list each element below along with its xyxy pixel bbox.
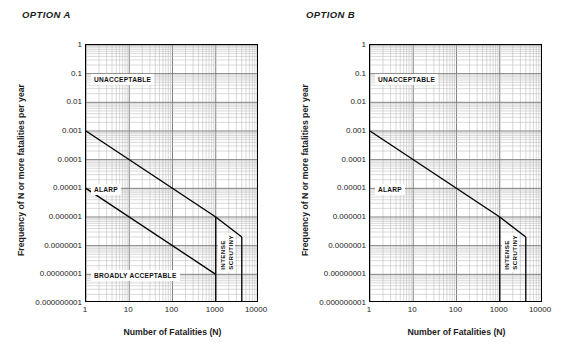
y-tick: 0.1 bbox=[355, 68, 366, 77]
panel-b-plot-area: UNACCEPTABLE ALARP INTENSE SCRUTINY bbox=[369, 44, 542, 302]
y-tick: 1 bbox=[78, 40, 82, 49]
label-scrutiny: SCRUTINY bbox=[227, 235, 234, 270]
y-tick: 0.00001 bbox=[53, 183, 82, 192]
y-tick: 0.00000001 bbox=[324, 269, 366, 278]
x-tick: 1000 bbox=[206, 305, 224, 314]
panel-a-y-ticklabels: 1 0.1 0.01 0.001 0.0001 0.00001 0.000001… bbox=[0, 44, 82, 302]
y-tick: 0.01 bbox=[66, 97, 82, 106]
zone-label-broadly-acceptable: BROADLY ACCEPTABLE bbox=[91, 270, 180, 281]
y-tick: 0.00001 bbox=[337, 183, 366, 192]
panel-a-plot-area: UNACCEPTABLE ALARP BROADLY ACCEPTABLE IN… bbox=[85, 44, 258, 302]
y-tick: 0.000001 bbox=[49, 212, 82, 221]
y-tick: 0.0000001 bbox=[44, 240, 82, 249]
x-tick: 10000 bbox=[529, 305, 551, 314]
y-tick: 0.000000001 bbox=[35, 298, 82, 307]
intense-scrutiny-label-group: INTENSE SCRUTINY bbox=[502, 233, 519, 272]
y-tick: 0.01 bbox=[350, 97, 366, 106]
y-tick: 0.0000001 bbox=[328, 240, 366, 249]
y-tick: 0.0001 bbox=[58, 154, 82, 163]
panel-b-x-axis-label: Number of Fatalities (N) bbox=[369, 327, 544, 337]
y-tick: 0.1 bbox=[71, 68, 82, 77]
x-tick: 100 bbox=[449, 305, 462, 314]
label-scrutiny: SCRUTINY bbox=[511, 235, 518, 270]
x-tick: 100 bbox=[165, 305, 178, 314]
intense-scrutiny-label-group: INTENSE SCRUTINY bbox=[218, 233, 235, 272]
zone-label-alarp: ALARP bbox=[91, 184, 121, 195]
zone-label-unacceptable: UNACCEPTABLE bbox=[375, 74, 438, 85]
panel-b-title: OPTION B bbox=[306, 9, 355, 20]
criteria-lines bbox=[370, 131, 526, 302]
x-tick: 1 bbox=[367, 305, 371, 314]
y-tick: 0.0001 bbox=[342, 154, 366, 163]
x-tick: 1000 bbox=[490, 305, 508, 314]
y-tick: 0.000000001 bbox=[319, 298, 366, 307]
y-tick: 1 bbox=[362, 40, 366, 49]
panel-b-x-ticklabels: 1 10 100 1000 10000 bbox=[369, 305, 542, 319]
panel-b-y-ticklabels: 1 0.1 0.01 0.001 0.0001 0.00001 0.000001… bbox=[284, 44, 366, 302]
x-tick: 10 bbox=[124, 305, 133, 314]
panel-a-x-ticklabels: 1 10 100 1000 10000 bbox=[85, 305, 258, 319]
zone-label-alarp: ALARP bbox=[375, 184, 405, 195]
panel-option-b: OPTION B Frequency of N or more fataliti… bbox=[284, 0, 568, 349]
figure-root: OPTION A Frequency of N or more fataliti… bbox=[0, 0, 568, 349]
label-intense: INTENSE bbox=[219, 235, 226, 270]
y-tick: 0.000001 bbox=[333, 212, 366, 221]
lower-criterion-line bbox=[86, 188, 216, 274]
x-tick: 1 bbox=[83, 305, 87, 314]
y-tick: 0.001 bbox=[346, 126, 366, 135]
x-tick: 10000 bbox=[245, 305, 267, 314]
label-intense: INTENSE bbox=[503, 235, 510, 270]
y-tick: 0.00000001 bbox=[40, 269, 82, 278]
zone-label-unacceptable: UNACCEPTABLE bbox=[91, 74, 154, 85]
panel-a-title: OPTION A bbox=[22, 9, 71, 20]
x-tick: 10 bbox=[408, 305, 417, 314]
panel-a-x-axis-label: Number of Fatalities (N) bbox=[85, 327, 260, 337]
y-tick: 0.001 bbox=[62, 126, 82, 135]
panel-option-a: OPTION A Frequency of N or more fataliti… bbox=[0, 0, 284, 349]
